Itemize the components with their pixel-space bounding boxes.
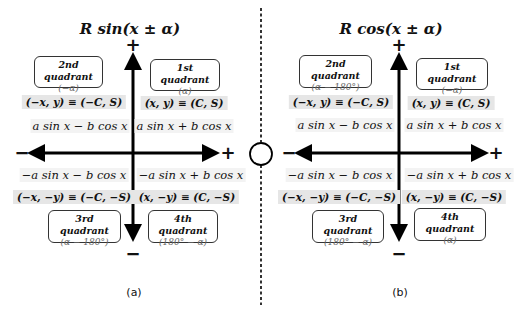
q4-coord: (x, −y) ≡ (C, −S) bbox=[402, 190, 506, 204]
q2-coord: (−x, y) ≡ (−C, S) bbox=[289, 95, 393, 109]
center-circle bbox=[250, 143, 272, 165]
q2-coord: (−x, y) ≡ (−C, S) bbox=[22, 95, 126, 109]
q3-coord: (−x, −y) ≡ (−C, −S) bbox=[278, 190, 400, 204]
q1-coord: (x, y) ≡ (C, S) bbox=[141, 96, 228, 110]
q4-coord: (x, −y) ≡ (C, −S) bbox=[135, 190, 239, 204]
panel-a-caption: (a) bbox=[126, 286, 141, 299]
q3-expr: −a sin x − b cos x bbox=[20, 168, 129, 182]
q4-label-box: 4th quadrant (180° − α) bbox=[148, 210, 218, 243]
panel-b-caption: (b) bbox=[392, 286, 408, 299]
q4-expr: −a sin x + b cos x bbox=[405, 168, 514, 182]
axes-layer bbox=[0, 0, 516, 315]
q3-label-box: 3rd quadrant (180° − α) bbox=[312, 210, 384, 243]
y-plus-sign: + bbox=[391, 36, 406, 54]
q3-coord: (−x, −y) ≡ (−C, −S) bbox=[13, 190, 135, 204]
x-minus-sign: − bbox=[281, 144, 296, 162]
q2-label-box: 2nd quadrant (α − 180°) bbox=[299, 55, 372, 88]
q2-label-box: 2nd quadrant (−α) bbox=[34, 56, 103, 88]
q2-expr: a sin x − b cos x bbox=[295, 118, 394, 132]
q1-label-box: 1st quadrant (α) bbox=[150, 59, 220, 91]
x-plus-sign: + bbox=[488, 144, 503, 162]
q3-label-box: 3rd quadrant (α − 180°) bbox=[48, 210, 121, 243]
y-minus-sign: − bbox=[125, 245, 140, 263]
y-plus-sign: + bbox=[125, 36, 140, 54]
q1-label-box: 1st quadrant (−α) bbox=[416, 58, 488, 90]
x-plus-sign: + bbox=[220, 144, 235, 162]
q4-expr: −a sin x + b cos x bbox=[137, 168, 246, 182]
q4-label-box: 4th quadrant (α) bbox=[414, 208, 486, 241]
q3-expr: −a sin x − b cos x bbox=[286, 168, 395, 182]
q1-coord: (x, y) ≡ (C, S) bbox=[408, 96, 495, 110]
q1-expr: a sin x + b cos x bbox=[134, 119, 233, 133]
y-minus-sign: − bbox=[391, 245, 406, 263]
q2-expr: a sin x − b cos x bbox=[30, 119, 129, 133]
x-minus-sign: − bbox=[14, 144, 29, 162]
q1-expr: a sin x + b cos x bbox=[404, 118, 503, 132]
